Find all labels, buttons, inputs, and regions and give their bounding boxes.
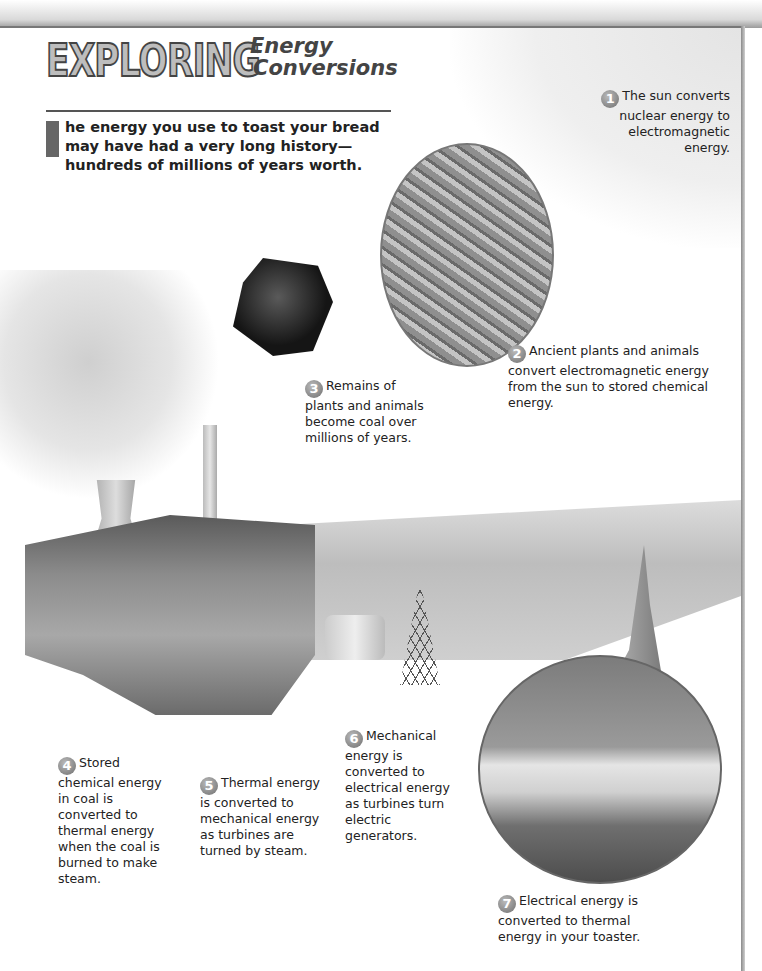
callout-text: Ancient plants and animals convert elect… bbox=[508, 343, 709, 410]
dragonfly-fern-image bbox=[380, 143, 554, 367]
step-number-badge: 5 bbox=[200, 777, 218, 795]
step-number-badge: 7 bbox=[498, 895, 516, 913]
subtitle-line-2: Conversions bbox=[253, 57, 398, 79]
callout-text: The sun converts nuclear energy to elect… bbox=[619, 88, 730, 155]
step-number-badge: 4 bbox=[58, 757, 76, 775]
coal-image bbox=[233, 258, 333, 356]
callout-text: Mechanical energy is converted to electr… bbox=[345, 728, 450, 843]
power-plant-cutaway-image bbox=[25, 515, 315, 715]
smoke-plume-image bbox=[0, 270, 220, 500]
callout-4: 4Stored chemical energy in coal is conve… bbox=[58, 755, 173, 887]
step-number-badge: 3 bbox=[305, 380, 323, 398]
callout-text: Thermal energy is converted to mechanica… bbox=[200, 775, 320, 858]
step-number-badge: 1 bbox=[601, 90, 619, 108]
callout-2: 2Ancient plants and animals convert elec… bbox=[508, 343, 713, 411]
page-title: EXPLORING bbox=[46, 35, 260, 86]
callout-1: 1The sun converts nuclear energy to elec… bbox=[600, 88, 730, 156]
callout-text: Stored chemical energy in coal is conver… bbox=[58, 755, 162, 886]
kitchen-toaster-image bbox=[478, 655, 722, 884]
page-subtitle: Energy Conversions bbox=[250, 35, 398, 79]
intro-paragraph: he energy you use to toast your bread ma… bbox=[46, 118, 381, 175]
title-rule bbox=[46, 110, 391, 112]
subtitle-line-1: Energy bbox=[250, 35, 398, 57]
step-number-badge: 2 bbox=[508, 345, 526, 363]
callout-7: 7Electrical energy is converted to therm… bbox=[498, 893, 668, 945]
drop-cap bbox=[46, 121, 59, 157]
step-number-badge: 6 bbox=[345, 730, 363, 748]
callout-6: 6Mechanical energy is converted to elect… bbox=[345, 728, 450, 844]
smokestack-image bbox=[203, 425, 217, 520]
page-top-shadow bbox=[0, 0, 762, 28]
callout-text: Electrical energy is converted to therma… bbox=[498, 893, 640, 944]
intro-text: he energy you use to toast your bread ma… bbox=[65, 119, 380, 173]
callout-5: 5Thermal energy is converted to mechanic… bbox=[200, 775, 320, 859]
storage-tanks-image bbox=[325, 615, 385, 660]
callout-3: 3Remains of plants and animals become co… bbox=[305, 378, 430, 446]
frame-right-border bbox=[741, 26, 745, 971]
